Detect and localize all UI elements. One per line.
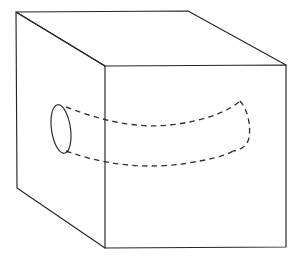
cube-with-tube-diagram (0, 0, 303, 262)
figure-canvas (0, 0, 303, 262)
cube-face-fills (16, 11, 286, 248)
cube-front-face-fill (105, 65, 286, 248)
